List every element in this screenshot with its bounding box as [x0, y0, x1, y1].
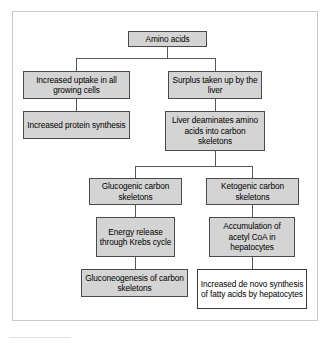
node-de-novo-synthesis-label: Increased de novo synthesis of fatty aci…	[200, 279, 304, 300]
node-accumulation-acetyl-coa[interactable]: Accumulation of acetyl CoA in hepatocyte…	[209, 217, 295, 257]
connector-to-glucogenic	[135, 166, 136, 178]
caption-divider	[9, 337, 71, 338]
connector-glucogenic-to-energy	[135, 205, 136, 217]
node-energy-release-label: Energy release through Krebs cycle	[99, 227, 172, 248]
node-increased-protein-synthesis-label: Increased protein synthesis	[26, 120, 127, 130]
connector-ketogenic-to-accumulation	[252, 205, 253, 217]
node-accumulation-acetyl-coa-label: Accumulation of acetyl CoA in hepatocyte…	[212, 221, 292, 252]
connector-to-increased-uptake	[76, 58, 77, 71]
node-amino-acids-label: Amino acids	[131, 34, 204, 44]
node-glucogenic-label: Glucogenic carbon skeletons	[92, 181, 179, 202]
connector-liver-stem	[215, 151, 216, 166]
node-amino-acids[interactable]: Amino acids	[128, 31, 207, 47]
node-ketogenic[interactable]: Ketogenic carbon skeletons	[206, 178, 299, 205]
connector-to-surplus-taken	[215, 58, 216, 71]
connector-level3-bar	[135, 166, 252, 167]
node-glucogenic[interactable]: Glucogenic carbon skeletons	[89, 178, 182, 205]
connector-root-stem	[167, 47, 168, 58]
connector-accumulation-to-denovo	[252, 257, 253, 269]
node-energy-release[interactable]: Energy release through Krebs cycle	[96, 217, 175, 257]
connector-uptake-to-protein-synthesis	[76, 99, 77, 111]
node-increased-uptake[interactable]: Increased uptake in all growing cells	[23, 71, 130, 99]
node-gluconeogenesis[interactable]: Gluconeogenesis of carbon skeletons	[81, 269, 188, 297]
connector-level1-bar	[76, 58, 215, 59]
node-gluconeogenesis-label: Gluconeogenesis of carbon skeletons	[84, 273, 185, 294]
connector-to-ketogenic	[252, 166, 253, 178]
node-liver-deaminates-label: Liver deaminates amino acids into carbon…	[168, 115, 262, 146]
node-liver-deaminates[interactable]: Liver deaminates amino acids into carbon…	[165, 111, 265, 151]
node-surplus-taken[interactable]: Surplus taken up by the liver	[168, 71, 262, 99]
node-increased-uptake-label: Increased uptake in all growing cells	[26, 75, 127, 96]
node-de-novo-synthesis[interactable]: Increased de novo synthesis of fatty aci…	[197, 269, 307, 309]
connector-surplus-to-liver	[215, 99, 216, 111]
connector-energy-to-gluconeogenesis	[135, 257, 136, 269]
node-increased-protein-synthesis[interactable]: Increased protein synthesis	[23, 111, 130, 139]
node-ketogenic-label: Ketogenic carbon skeletons	[209, 181, 296, 202]
flowchart-figure: Amino acids Increased uptake in all grow…	[0, 0, 336, 346]
node-surplus-taken-label: Surplus taken up by the liver	[171, 75, 259, 96]
